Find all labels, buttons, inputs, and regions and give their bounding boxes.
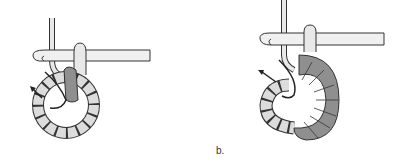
figure-b-crochet-ring-multiple-stitches [194, 0, 394, 162]
figure-label-b: b. [216, 145, 224, 156]
crochet-hook-icon [260, 33, 384, 45]
chain-ring [266, 85, 294, 128]
worked-stitches [294, 55, 339, 140]
direction-arrow-icon [258, 70, 276, 82]
figure-a-crochet-ring-first-stitch [0, 0, 200, 162]
worked-stitch [64, 67, 78, 102]
crochet-hook-icon [33, 50, 150, 61]
